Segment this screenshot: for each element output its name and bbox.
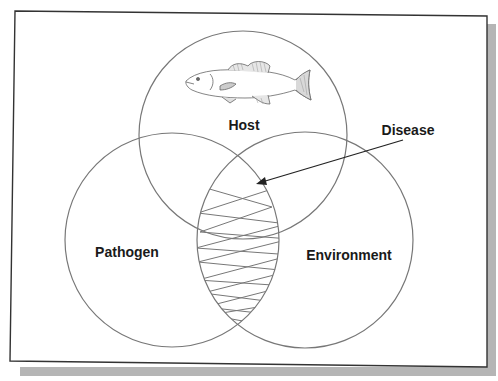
venn-diagram: Host Pathogen Environment Disease [0,0,498,381]
disease-label: Disease [382,122,435,138]
environment-label: Environment [306,247,392,263]
pathogen-label: Pathogen [95,244,159,260]
frame-border [10,11,487,367]
host-label: Host [228,117,259,133]
